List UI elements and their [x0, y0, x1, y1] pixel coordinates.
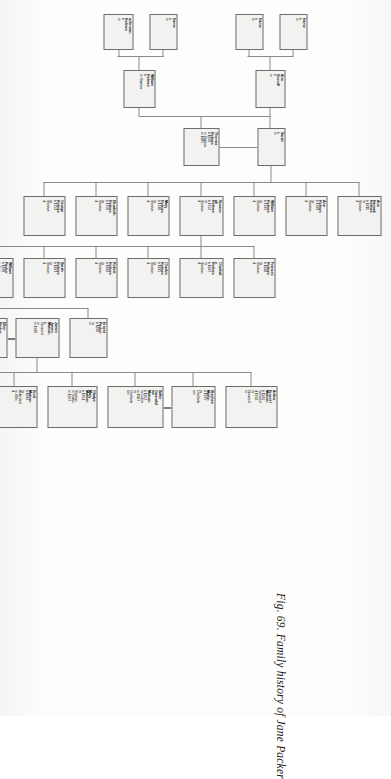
node-person-details: b 1845 in Stanton d [145, 262, 159, 295]
node-person-name: Sarah [278, 132, 282, 163]
tree-node: William Holmesb 1746 in Stanton d [233, 196, 275, 236]
connector [200, 116, 201, 128]
tree-node: Charles Holmesb 1845 in Stanton d [127, 258, 169, 298]
node-person-details: b m Stanton [138, 74, 145, 105]
node-person-details: b m [268, 74, 275, 105]
connector [0, 372, 251, 373]
node-person-name: Name [300, 18, 304, 47]
connector [0, 246, 254, 247]
node-person-name: Name [170, 18, 174, 47]
connector [269, 116, 270, 128]
figure-caption-text: Fig. 69. Family history of Jane Packer [275, 593, 287, 779]
tree-node: William Packerb 1839 in Cotn itt in Adwy… [0, 258, 13, 298]
node-person-details: b 1839 in Cotn itt in Adwyn d [0, 262, 3, 295]
connector [138, 56, 139, 70]
tree-node: Susann ah Holmesb 1752 in Stanton d [179, 196, 223, 236]
connector [192, 372, 193, 386]
tree-node: William Holmesb m Stanton [123, 70, 155, 108]
connector [248, 50, 249, 57]
connector-marriage [7, 338, 15, 340]
connector [162, 50, 163, 57]
node-person-details: b 1844 in Stanton d [93, 262, 107, 295]
connector [71, 372, 72, 386]
tree-node: Ernest Packerb 1895 in m [69, 318, 107, 358]
node-person-name: Charlott e Holmes [209, 262, 220, 295]
tree-node: Ann Hannah Holmesb 1811 in Stanton d [337, 196, 381, 236]
node-person-details: b 1843 in Stanton d [41, 262, 55, 295]
node-person-name: Sallie Gwendol ine Matson [145, 390, 160, 425]
connector [43, 246, 44, 258]
node-person-details: b 1951 in Stanton m Tewks m 1967 [66, 390, 83, 425]
connector [200, 182, 201, 196]
connector [117, 56, 163, 57]
tree-node: Gladys Mary Matsonb 1951 in Stanton m Te… [47, 386, 97, 428]
connector [250, 372, 251, 386]
tree-node: Ann Scovellb m [255, 70, 285, 108]
connector [270, 166, 271, 183]
tree-node: Ellen Packerb 1893 in m [0, 318, 7, 358]
tree-node: Charlott e Holmesb 1847 in Stanton d [179, 258, 223, 298]
tree-node: Elizabeth Holmesb 1750 in Stanton d [75, 196, 117, 236]
tree-node: Ann Holmesb 1749 in Stanton d [285, 196, 327, 236]
node-person-details: b m [163, 18, 170, 47]
tree-node: unknown Holmesb m [103, 14, 133, 50]
node-person-name: Ann Scovell [275, 74, 282, 105]
connector [134, 372, 135, 386]
node-person-details: b 1957 in Colvin m 1987 in Cheltenh am [125, 390, 146, 425]
connector [118, 50, 119, 57]
tree-node: Nameb m [149, 14, 177, 50]
connector [269, 56, 270, 70]
node-person-name: William Holmes [145, 74, 152, 105]
node-person-details: b m [116, 18, 123, 47]
connector [219, 147, 257, 148]
node-person-name: unknown Holmes [123, 18, 130, 47]
connector [95, 182, 96, 196]
tree-node: Sallie Gwendol ine Matsonb 1957 in Colvi… [107, 386, 163, 428]
tree-node: Thomas Holmesb 1822 m Stanton m 1885 [183, 128, 219, 166]
node-person-details: b 1936 in Bristol d 1932 in Gloucest er [242, 390, 263, 425]
connector [305, 182, 306, 196]
connector [0, 308, 88, 309]
node-person-name: Name [256, 18, 260, 47]
tree-node: Sarahb m [257, 128, 285, 166]
tree-node: Nameb m [279, 14, 307, 50]
tree-node: Mary Holmesb 1748 in Stanton d [127, 196, 169, 236]
tree-node: James James Matsonb Gloucest er m 1930 [15, 318, 59, 358]
node-person-details: b 1750 in Stanton d [93, 200, 107, 233]
connector [87, 308, 88, 318]
node-person-details: b 1822 m Stanton m 1885 [198, 132, 208, 163]
tree-node: Stephen Martinb 1976 in Cheltenh am [171, 386, 215, 428]
connector [253, 182, 254, 196]
node-person-name: James James Matson [45, 322, 56, 355]
node-person-details: b 1748 in Stanton d [145, 200, 159, 233]
node-person-name: Gladys Mary Matson [83, 390, 94, 425]
node-person-details: b 1811 in Stanton d [353, 200, 367, 233]
node-person-name: Ellen Packer [0, 322, 4, 355]
connector [138, 108, 139, 117]
node-person-details: b 1895 in m [86, 322, 96, 355]
node-person-details: b 1746 in Stanton d [251, 200, 265, 233]
connector [253, 246, 254, 258]
connector-marriage [163, 407, 171, 409]
connector [147, 246, 148, 258]
node-person-name: Susann ah Holmes [209, 200, 220, 233]
node-person-details: b 1752 in Stanton d [195, 200, 209, 233]
node-person-details: b 1848 in Stanton d [251, 262, 265, 295]
node-person-details: b 1844 in Aldershot m Wills d [9, 390, 26, 425]
node-person-name: Ann Hannah Holmes [367, 200, 378, 233]
connector [147, 182, 148, 196]
tree-node: Robert Holmesb 1844 in Stanton d [75, 258, 117, 298]
connector [358, 182, 359, 196]
tree-node: Nameb m [235, 14, 263, 50]
connector [36, 358, 37, 373]
node-person-details: b 1749 in Stanton d [303, 200, 317, 233]
tree-node: Frances Holmesb 1848 in Stanton d [233, 258, 275, 298]
connector [95, 246, 96, 258]
connector [43, 182, 44, 196]
connector [200, 246, 201, 258]
tree-node: George Holmesb 1753 in Stanton d [23, 196, 65, 236]
node-person-details: b 1753 in Stanton d [41, 200, 55, 233]
